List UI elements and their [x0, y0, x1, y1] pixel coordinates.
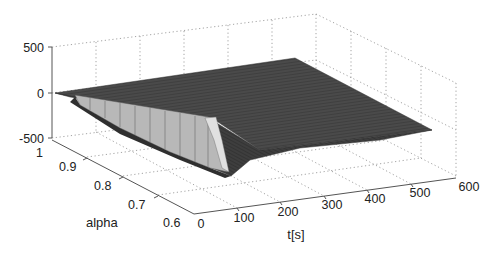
alpha-tick: 0.6 [163, 216, 180, 230]
t-axis-label: t[s] [287, 227, 304, 242]
alpha-axis-label: alpha [86, 215, 119, 230]
t-tick: 300 [322, 198, 343, 212]
t-tick: 500 [410, 186, 431, 200]
alpha-tick: 1 [36, 146, 43, 160]
surface [55, 58, 432, 178]
z-tick: 500 [23, 41, 44, 55]
t-tick-labels: 0 100 200 300 400 500 600 [198, 180, 480, 231]
t-tick: 600 [459, 180, 480, 194]
t-tick: 400 [365, 192, 386, 206]
t-tick: 0 [198, 217, 205, 231]
t-tick: 200 [278, 205, 299, 219]
z-tick: -500 [19, 132, 44, 146]
alpha-tick: 0.7 [128, 198, 145, 212]
z-tick: 0 [37, 87, 44, 101]
alpha-tick: 0.8 [94, 179, 111, 193]
t-tick: 100 [234, 211, 255, 225]
alpha-tick: 0.9 [59, 160, 76, 174]
surface-plot: 500 0 -500 1 0.9 0.8 0.7 0.6 0 100 200 3… [0, 0, 498, 255]
z-tick-labels: 500 0 -500 [19, 41, 44, 146]
